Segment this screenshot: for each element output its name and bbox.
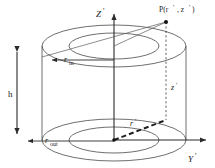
inner-radius-label-group: r in [64, 55, 74, 66]
z-axis-label: Z [96, 9, 102, 19]
figure-canvas: Z ' Y ' P(r ' , z ' ) h r in r out r ' z… [0, 0, 215, 168]
point-label-prime2: ' [189, 3, 190, 11]
y-axis-label-group: Y ' [188, 152, 197, 164]
inner-radius-label: r [64, 55, 68, 64]
rim-to-point-line [42, 22, 166, 57]
inner-radius-subscript: in [69, 60, 74, 66]
z-axis-label-group: Z ' [96, 7, 105, 19]
radial-coordinate-prime: ' [135, 117, 136, 125]
origin-marker [112, 138, 116, 142]
y-axis-prime: ' [195, 152, 197, 161]
outer-radius-label-group: r out [45, 136, 58, 147]
vertical-coordinate-label-group: z ' [170, 81, 177, 92]
y-axis-label: Y [188, 154, 194, 164]
radial-coordinate-label: r [130, 119, 134, 128]
radial-coordinate-label-group: r ' [130, 117, 136, 128]
point-label-group: P(r ' , z ' ) [159, 3, 195, 14]
point-P-marker [164, 20, 168, 24]
height-label: h [8, 89, 13, 99]
cylinder-diagram: Z ' Y ' P(r ' , z ' ) h r in r out r ' z… [0, 0, 215, 168]
point-label-end: ) [192, 5, 195, 14]
z-axis-prime: ' [103, 7, 105, 16]
outer-radius-subscript: out [50, 141, 58, 147]
outer-radius-label: r [45, 136, 49, 145]
axis-to-point-line [114, 22, 166, 46]
vertical-coordinate-prime: ' [176, 81, 177, 89]
point-label-prime1: ' [173, 3, 174, 11]
vertical-coordinate-label: z [170, 83, 175, 92]
point-label-mid: , z [177, 5, 185, 14]
height-label-group: h [8, 89, 13, 99]
point-label: P(r [159, 5, 169, 14]
